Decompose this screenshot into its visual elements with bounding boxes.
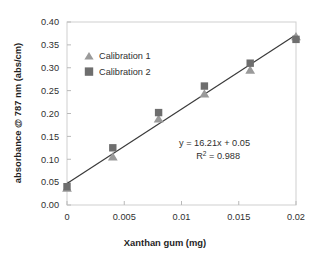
data-point — [109, 144, 116, 151]
y-axis-title: absorbance @ 787 nm (abs/cm) — [12, 43, 23, 183]
data-point — [292, 36, 299, 43]
data-point — [63, 183, 70, 190]
y-tick-label: 0.25 — [41, 86, 59, 96]
legend-label-calibration-2: Calibration 2 — [99, 67, 151, 77]
y-tick-label: 0.05 — [41, 177, 59, 187]
r-squared-number: = 0.988 — [207, 151, 240, 161]
x-tick-label: 0.02 — [287, 212, 305, 222]
y-tick-label: 0.35 — [41, 40, 59, 50]
x-tick-label: 0 — [64, 212, 69, 222]
x-tick-label: 0.01 — [173, 212, 191, 222]
y-tick-label: 0.20 — [41, 109, 59, 119]
x-axis-title: Xanthan gum (mg) — [124, 237, 206, 248]
scatter-plot: 0.000.050.100.150.200.250.300.350.40 00.… — [0, 0, 318, 256]
x-tick-label: 0.005 — [113, 212, 136, 222]
legend-square-icon — [85, 67, 93, 75]
chart-background — [0, 0, 318, 256]
y-tick-label: 0.10 — [41, 155, 59, 165]
y-tick-label: 0.15 — [41, 132, 59, 142]
y-tick-label: 0.30 — [41, 63, 59, 73]
y-axis-tick-labels: 0.000.050.100.150.200.250.300.350.40 — [41, 17, 59, 210]
data-point — [201, 82, 208, 89]
regression-equation: y = 16.21x + 0.05 — [179, 138, 250, 148]
data-point — [155, 109, 162, 116]
r-squared-value: R2 = 0.988 — [196, 150, 240, 162]
legend-label-calibration-1: Calibration 1 — [99, 51, 151, 61]
chart-container: 0.000.050.100.150.200.250.300.350.40 00.… — [0, 0, 318, 256]
y-tick-label: 0.40 — [41, 17, 59, 27]
y-tick-label: 0.00 — [41, 200, 59, 210]
data-point — [247, 59, 254, 66]
x-tick-label: 0.015 — [227, 212, 250, 222]
